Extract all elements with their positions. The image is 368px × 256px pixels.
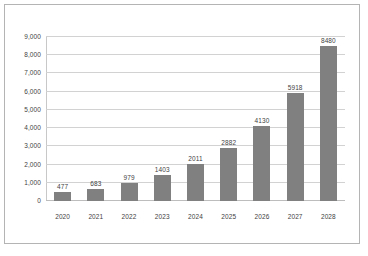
bar-slot: 2882: [212, 37, 245, 201]
y-axis-tick-label: 1,000: [24, 178, 41, 185]
bar-value-label: 477: [57, 183, 68, 190]
x-tick-slot: 2028: [312, 205, 345, 223]
bar-chart: 01,0002,0003,0004,0005,0006,0007,0008,00…: [5, 5, 361, 245]
x-tick-slot: 2023: [146, 205, 179, 223]
x-axis-tick-label: 2021: [88, 213, 103, 220]
y-axis-tick-label: 6,000: [24, 87, 41, 94]
bar-value-label: 2882: [221, 139, 236, 146]
y-axis-tick-label: 8,000: [24, 51, 41, 58]
bar-slot: 683: [79, 37, 112, 201]
bar[interactable]: [253, 126, 270, 201]
bar[interactable]: [87, 189, 104, 201]
y-axis-tick-label: 0: [37, 197, 41, 204]
x-tick-slot: 2022: [112, 205, 145, 223]
y-axis-tick-label: 9,000: [24, 33, 41, 40]
x-tick-slot: 2025: [212, 205, 245, 223]
bar-value-label: 683: [90, 180, 101, 187]
bar[interactable]: [287, 93, 304, 201]
bars-container: 477683979140320112882413059188480: [46, 37, 345, 201]
bar-slot: 477: [46, 37, 79, 201]
x-tick-slot: 2026: [245, 205, 278, 223]
x-axis-tick-label: 2028: [321, 213, 336, 220]
bar-value-label: 8480: [321, 37, 336, 44]
bar[interactable]: [121, 183, 138, 201]
x-tick-slot: 2021: [79, 205, 112, 223]
bar-value-label: 2011: [188, 155, 202, 162]
y-axis-tick-label: 5,000: [24, 105, 41, 112]
bar[interactable]: [220, 148, 237, 201]
bar[interactable]: [54, 192, 71, 201]
x-axis-tick-label: 2020: [55, 213, 70, 220]
bar-value-label: 5918: [288, 84, 303, 91]
bar-slot: 2011: [179, 37, 212, 201]
bar-slot: 1403: [146, 37, 179, 201]
x-tick-slot: 2027: [279, 205, 312, 223]
x-axis-tick-label: 2023: [155, 213, 170, 220]
bar[interactable]: [154, 175, 171, 201]
x-axis-tick-label: 2027: [288, 213, 303, 220]
x-axis-tick-label: 2024: [188, 213, 203, 220]
x-axis-tick-label: 2025: [221, 213, 236, 220]
y-axis-tick-label: 4,000: [24, 124, 41, 131]
bar-slot: 5918: [279, 37, 312, 201]
bar-value-label: 979: [123, 174, 134, 181]
bar-slot: 4130: [245, 37, 278, 201]
bar-slot: 8480: [312, 37, 345, 201]
x-axis-labels: 202020212022202320242025202620272028: [46, 205, 345, 223]
x-tick-slot: 2020: [46, 205, 79, 223]
x-axis-tick-label: 2022: [122, 213, 137, 220]
bar-slot: 979: [112, 37, 145, 201]
chart-frame: 01,0002,0003,0004,0005,0006,0007,0008,00…: [4, 4, 360, 244]
bar[interactable]: [320, 46, 337, 201]
y-axis-tick-label: 3,000: [24, 142, 41, 149]
y-axis-tick-label: 7,000: [24, 69, 41, 76]
bar-value-label: 4130: [254, 117, 269, 124]
bar-value-label: 1403: [155, 166, 170, 173]
y-axis-tick-label: 2,000: [24, 160, 41, 167]
bar[interactable]: [187, 164, 204, 201]
x-tick-slot: 2024: [179, 205, 212, 223]
x-axis-tick-label: 2026: [254, 213, 269, 220]
